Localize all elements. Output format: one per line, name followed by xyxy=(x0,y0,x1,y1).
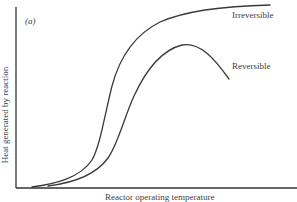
reversible-label: Reversible xyxy=(232,61,271,71)
irreversible-label: Irreversible xyxy=(232,10,273,20)
reversible-curve xyxy=(48,45,229,186)
x-axis-label: Reactor operating temperature xyxy=(105,192,214,202)
figure: (a) Irreversible Reversible Reactor oper… xyxy=(0,0,297,202)
irreversible-curve xyxy=(32,5,270,187)
panel-label: (a) xyxy=(25,16,36,26)
y-axis-label: Heat generated by reaction xyxy=(0,55,10,175)
plot-area xyxy=(0,0,297,202)
